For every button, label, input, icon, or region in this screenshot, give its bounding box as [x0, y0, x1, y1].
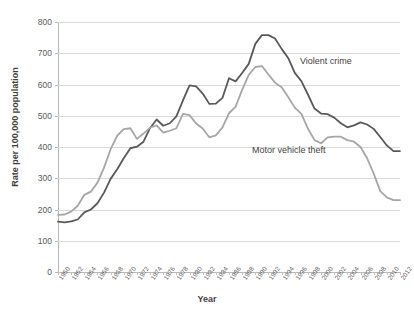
- series-label-motor-vehicle-theft: Motor vehicle theft: [252, 145, 326, 155]
- series-lines: [0, 0, 414, 320]
- x-axis-title: Year: [0, 294, 414, 304]
- crime-rate-line-chart: 0100200300400500600700800 19601962196419…: [0, 0, 414, 320]
- series-label-violent-crime: Violent crime: [300, 56, 352, 66]
- y-axis-title: Rate per 100,000 population: [10, 47, 20, 207]
- series-line-motor-vehicle-theft: [58, 66, 400, 215]
